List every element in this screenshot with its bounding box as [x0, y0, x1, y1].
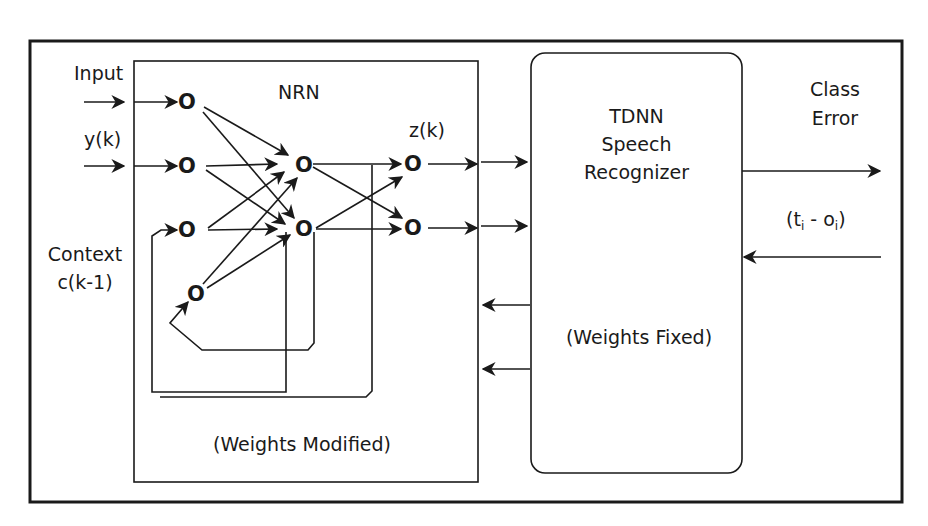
z-label: z(k) — [409, 119, 445, 141]
node-input-1: O — [178, 92, 196, 112]
tdnn-caption: (Weights Fixed) — [531, 326, 747, 348]
context-feedback-loop — [152, 230, 286, 392]
node-hidden-1: O — [295, 155, 313, 175]
node-output-1: O — [404, 154, 422, 174]
tdnn-title: TDNN Speech Recognizer — [531, 102, 742, 186]
class-error-label: Class Error — [790, 75, 880, 133]
input-label: Input — [74, 62, 123, 84]
tdnn-title-line-3: Recognizer — [531, 158, 742, 186]
output-feedback-loop — [160, 165, 372, 397]
node-context-1: O — [178, 220, 196, 240]
node-output-2: O — [404, 218, 422, 238]
nrn-title: NRN — [278, 81, 320, 103]
y-label: y(k) — [84, 128, 121, 150]
diagram-canvas — [0, 0, 928, 526]
context-line-1: Context — [44, 243, 126, 265]
class-line-1: Class — [790, 75, 880, 104]
tdnn-title-line-1: TDNN — [531, 102, 742, 130]
outer-frame — [30, 41, 902, 502]
node-input-2: O — [178, 156, 196, 176]
node-hidden-2: O — [295, 219, 313, 239]
context-line-2: c(k-1) — [44, 271, 126, 293]
nrn-caption: (Weights Modified) — [213, 433, 391, 455]
tdnn-title-line-2: Speech — [531, 130, 742, 158]
error-term-label: (ti - oi) — [786, 208, 846, 237]
context-label: Context c(k-1) — [44, 243, 126, 293]
class-line-2: Error — [790, 104, 880, 133]
node-context-2: O — [187, 284, 205, 304]
